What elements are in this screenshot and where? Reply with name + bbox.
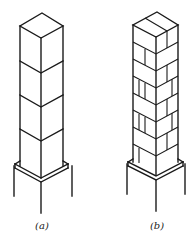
column-b-plinth-right-cap [178, 159, 183, 162]
figure-drawing [0, 0, 191, 241]
column-b-top-joint [145, 18, 167, 31]
column-a-plinth-left-cap [15, 161, 20, 164]
column-b [127, 12, 185, 211]
column-b-left-joints [139, 49, 145, 163]
column-a-top-face [20, 13, 63, 38]
column-b-plinth-left-cap [128, 159, 133, 162]
figure: (a) (b) [0, 0, 191, 241]
column-a [14, 13, 72, 213]
caption-a: (a) [35, 220, 49, 231]
caption-b: (b) [150, 220, 164, 231]
column-a-plinth-right-cap [63, 161, 68, 164]
